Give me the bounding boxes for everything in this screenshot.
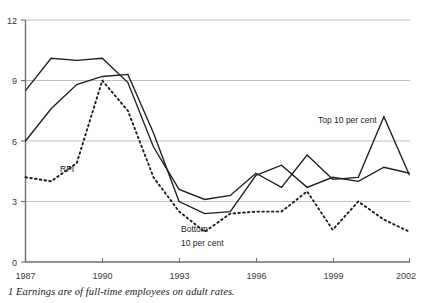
y-tick-label-0: 0 bbox=[12, 258, 17, 268]
x-tick-label-1999: 1999 bbox=[323, 271, 343, 281]
y-axis-tick-labels: 12 9 6 3 0 bbox=[7, 16, 17, 268]
x-axis-tick-labels: 1987 1990 1993 1996 1999 2002 bbox=[15, 271, 416, 281]
chart-plot-area: 12 9 6 3 0 1987 1990 1993 1996 1999 2002… bbox=[0, 0, 424, 303]
x-tick-label-2002: 2002 bbox=[396, 271, 416, 281]
x-tick-label-1993: 1993 bbox=[169, 271, 189, 281]
x-tick-label-1987: 1987 bbox=[15, 271, 35, 281]
series-annotations: RPI Bottom 10 per cent Top 10 per cent bbox=[60, 115, 377, 248]
annotation-rpi: RPI bbox=[60, 164, 74, 174]
x-tick-label-1990: 1990 bbox=[92, 271, 112, 281]
y-tick-label-9: 9 bbox=[12, 76, 17, 86]
data-series-group bbox=[26, 58, 410, 231]
series-line-rpi bbox=[26, 81, 410, 232]
annotation-bottom-10-per-cent: 10 per cent bbox=[181, 238, 224, 248]
gridlines bbox=[25, 20, 410, 202]
chart-footnote: 1 Earnings are of full-time employees on… bbox=[8, 286, 235, 297]
annotation-top-10-per-cent: Top 10 per cent bbox=[318, 115, 377, 125]
y-tick-label-12: 12 bbox=[7, 16, 17, 26]
series-line-top-10-per-cent bbox=[26, 58, 410, 199]
x-tick-label-1996: 1996 bbox=[246, 271, 266, 281]
earnings-growth-line-chart: 12 9 6 3 0 1987 1990 1993 1996 1999 2002… bbox=[0, 0, 424, 303]
y-tick-label-6: 6 bbox=[12, 137, 17, 147]
annotation-bottom: Bottom bbox=[181, 224, 208, 234]
y-tick-label-3: 3 bbox=[12, 197, 17, 207]
